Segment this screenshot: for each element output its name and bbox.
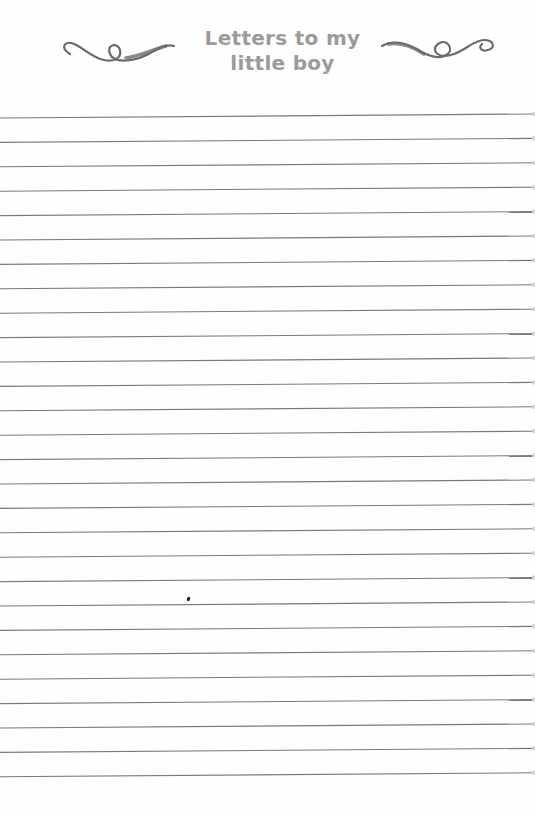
- ruled-line: [0, 212, 532, 216]
- ruled-line: [0, 504, 532, 508]
- ruled-line: [0, 334, 532, 338]
- ruled-line: [0, 602, 532, 606]
- ruled-line: [0, 578, 532, 582]
- ruled-line: [0, 163, 532, 167]
- ruled-line: [0, 431, 532, 435]
- ruled-line: [0, 407, 532, 411]
- ruled-line: [0, 675, 532, 679]
- ruled-line: [0, 285, 532, 289]
- ruled-line: [0, 309, 532, 313]
- ruled-line: [0, 480, 532, 484]
- ruled-line: [0, 236, 532, 240]
- ruled-line: [0, 358, 532, 362]
- ruled-line: [0, 138, 532, 142]
- ruled-lines: [0, 0, 535, 816]
- ruled-line: [0, 114, 532, 118]
- notebook-page: Letters to my little boy: [0, 0, 535, 816]
- ruled-line: [0, 626, 532, 630]
- ruled-line: [0, 260, 532, 264]
- ruled-line: [0, 651, 532, 655]
- ruled-line: [0, 529, 532, 533]
- ruled-line: [0, 187, 532, 191]
- ruled-line: [0, 553, 532, 557]
- ruled-line: [0, 724, 532, 728]
- ruled-line: [0, 700, 532, 704]
- ruled-line: [0, 773, 532, 777]
- ruled-line: [0, 382, 532, 386]
- ruled-line: [0, 456, 532, 460]
- ruled-line: [0, 748, 532, 752]
